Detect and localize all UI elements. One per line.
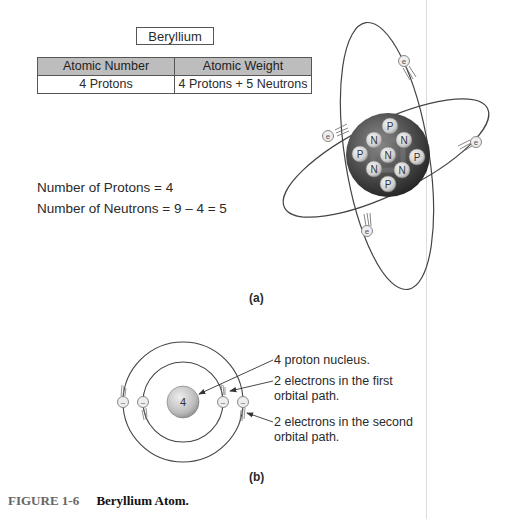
neutron-particle: N	[394, 162, 410, 178]
svg-text:–: –	[241, 398, 246, 407]
electron-bottom: e	[362, 213, 373, 237]
callout-second-orbit: 2 electrons in the second orbital path.	[274, 415, 413, 445]
svg-text:N: N	[384, 150, 391, 161]
svg-text:P: P	[357, 149, 364, 160]
svg-text:–: –	[121, 398, 126, 407]
leader-first-orbit	[230, 381, 273, 391]
proton-particle: P	[352, 146, 368, 162]
callout-first-orbit: 2 electrons in the first orbital path.	[274, 374, 393, 404]
panel-label-b: (b)	[249, 470, 264, 484]
svg-text:e: e	[474, 138, 479, 147]
neutron-particle: N	[366, 161, 382, 177]
leader-second-orbit	[247, 413, 273, 422]
svg-text:N: N	[400, 135, 407, 146]
svg-text:P: P	[414, 152, 421, 163]
svg-text:–: –	[221, 398, 226, 407]
svg-text:e: e	[402, 57, 407, 66]
beryllium-atom-2d: – – – – 4	[118, 342, 274, 462]
electron-outer-left: –	[118, 385, 129, 408]
figure-caption: FIGURE 1-6 Beryllium Atom.	[8, 493, 189, 509]
proton-particle: P	[380, 176, 396, 192]
figure-number: FIGURE 1-6	[8, 493, 79, 508]
electron-top: e	[399, 56, 417, 81]
callout-nucleus: 4 proton nucleus.	[274, 353, 370, 368]
figure-title: Beryllium Atom.	[96, 493, 188, 508]
svg-text:–: –	[141, 398, 146, 407]
beryllium-atom-3d: P N N P N P N N P e e e	[269, 16, 504, 296]
svg-text:e: e	[326, 132, 331, 141]
electron-right: e	[458, 137, 482, 153]
svg-text:N: N	[370, 164, 377, 175]
leader-nucleus	[199, 360, 273, 394]
atom-diagrams: P N N P N P N N P e e e	[0, 0, 516, 519]
neutron-particle: N	[380, 147, 396, 163]
nucleus-number: 4	[180, 396, 186, 408]
svg-text:P: P	[385, 179, 392, 190]
neutron-particle: N	[366, 132, 382, 148]
neutron-particle: N	[396, 132, 412, 148]
svg-text:P: P	[387, 121, 394, 132]
svg-text:N: N	[398, 165, 405, 176]
proton-particle: P	[409, 149, 425, 165]
proton-particle: P	[382, 118, 398, 134]
svg-text:N: N	[370, 135, 377, 146]
svg-text:e: e	[365, 227, 370, 236]
